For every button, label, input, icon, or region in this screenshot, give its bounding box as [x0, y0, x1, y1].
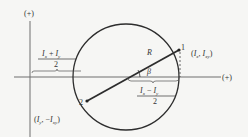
- angle-label: β: [146, 67, 151, 76]
- point-1-label: 1: [181, 43, 185, 52]
- vertical-axis-label: (+): [24, 9, 34, 18]
- half-difference-denominator: 2: [153, 97, 157, 106]
- diameter-line: [87, 50, 179, 101]
- point-2-label: 2: [79, 98, 83, 107]
- horizontal-axis-label: (+): [222, 73, 232, 82]
- center-distance-numerator: Ix + Iy: [41, 49, 61, 59]
- brace-half-difference: [128, 78, 179, 83]
- mohr-circle-diagram: (+) (+) β R 1 2 (Ix, Ixy) (Iy, −Ixy) Ix …: [0, 0, 248, 137]
- half-difference-annotation: Ix − Iy 2: [128, 78, 179, 106]
- point-2-dot: [85, 99, 88, 102]
- center-distance-denominator: 2: [54, 60, 58, 69]
- point-1-coords: (Ix, Ixy): [191, 49, 213, 59]
- radius-label: R: [146, 48, 152, 57]
- half-difference-numerator: Ix − Iy: [139, 86, 159, 96]
- point-2-coords: (Iy, −Ixy): [34, 115, 60, 125]
